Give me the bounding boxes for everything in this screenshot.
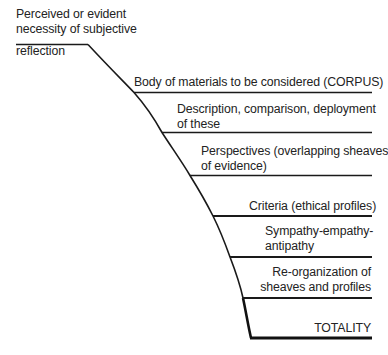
top-label-line-1: Perceived or evident <box>16 7 137 22</box>
step-label-corpus-line-1: Body of materials to be considered (CORP… <box>134 75 383 90</box>
step-label-totality: TOTALITY <box>314 321 371 336</box>
top-label-line-2: necessity of subjective <box>16 22 137 37</box>
step-label-criteria: Criteria (ethical profiles) <box>249 199 376 214</box>
step-label-reorganization-line-1: Re-organization of <box>260 265 371 280</box>
step-label-reorganization-line-2: sheaves and profiles <box>260 280 371 295</box>
step-label-description-line-2: of these <box>177 117 376 132</box>
step-label-corpus: Body of materials to be considered (CORP… <box>134 75 383 90</box>
step-label-perspectives-line-1: Perspectives (overlapping sheaves <box>201 144 388 159</box>
step-label-criteria-line-1: Criteria (ethical profiles) <box>249 199 376 214</box>
step-label-perspectives-line-2: of evidence) <box>201 159 388 174</box>
step-label-perspectives: Perspectives (overlapping sheaves of evi… <box>201 144 388 174</box>
top-label: Perceived or evident necessity of subjec… <box>16 7 137 37</box>
step-label-sympathy: Sympathy-empathy- antipathy <box>265 224 373 254</box>
step-label-totality-line-1: TOTALITY <box>314 321 371 336</box>
descending-curve-bottom <box>243 298 251 338</box>
step-label-sympathy-line-1: Sympathy-empathy- <box>265 224 373 239</box>
step-label-reorganization: Re-organization of sheaves and profiles <box>260 265 371 295</box>
step-label-sympathy-line-2: antipathy <box>265 239 373 254</box>
top-label-below-line: reflection <box>16 44 65 59</box>
step-label-description-line-1: Description, comparison, deployment <box>177 102 376 117</box>
step-label-description: Description, comparison, deployment of t… <box>177 102 376 132</box>
top-label-line-3: reflection <box>16 44 65 59</box>
